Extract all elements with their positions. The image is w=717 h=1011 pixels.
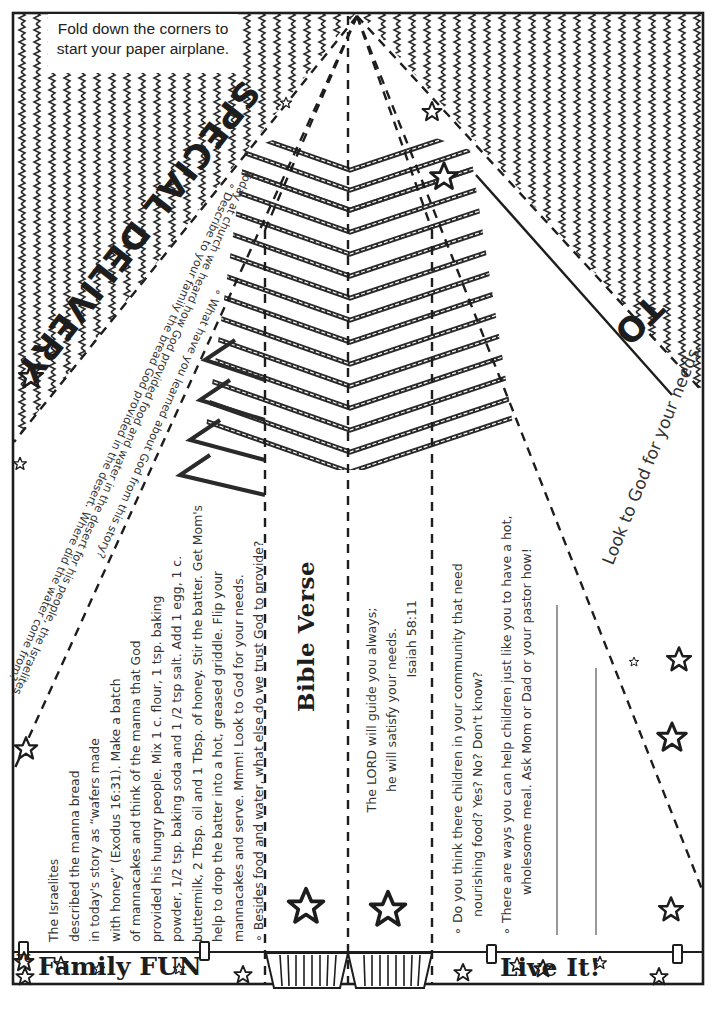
live-it-questions: ∘ Do you think there children in your co… [448, 515, 537, 935]
recipe-line: mannacakes and serve. Mmm! Look to God f… [229, 505, 250, 942]
recipe-line: ∘ Besides food and water, what else do w… [249, 505, 270, 942]
recipe-line: described the manna bread [65, 505, 86, 942]
recipe-line: of mannacakes and think of the manna tha… [126, 505, 147, 942]
recipe-line: powder, 1/2 tsp. baking soda and 1 /2 ts… [167, 505, 188, 942]
verse-line-1: The LORD will guide you always; [362, 590, 382, 830]
recipe-line: help to drop the batter into a hot, grea… [208, 505, 229, 942]
verse-line-2: he will satisfy your needs. [382, 590, 402, 830]
family-fun-recipe: The Israelites described the manna bread… [44, 505, 270, 942]
recipe-line: in today's story as “wafers made [85, 505, 106, 942]
live-it-q2-line1: ∘ There are ways you can help children j… [497, 515, 517, 935]
family-fun-title: Family FUN [38, 952, 202, 981]
live-it-q1-line2: nourishing food? Yes? No? Don't know? [468, 515, 488, 935]
verse-reference: Isaiah 58:11 [402, 590, 422, 830]
bible-verse-title: Bible Verse [292, 561, 319, 712]
live-it-title: Live It! [500, 953, 600, 982]
fold-instruction: Fold down the corners to start your pape… [48, 14, 238, 73]
recipe-line: with honey” (Exodus 16:31). Make a batch [106, 505, 127, 942]
bible-verse-text: The LORD will guide you always; he will … [362, 590, 422, 830]
recipe-line: The Israelites [44, 505, 65, 942]
recipe-line: buttermilk, 2 Tbsp. oil and 1 Tbsp. of h… [188, 505, 209, 942]
recipe-line: provided his hungry people. Mix 1 c. flo… [147, 505, 168, 942]
live-it-q2-line2: wholesome meal. Ask Mom or Dad or your p… [517, 515, 537, 935]
page-number: 76 [16, 952, 31, 965]
live-it-q1-line1: ∘ Do you think there children in your co… [448, 515, 468, 935]
